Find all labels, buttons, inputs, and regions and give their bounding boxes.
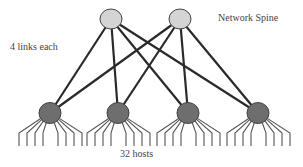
spine-switch-node xyxy=(100,9,122,29)
leaf-switch-node xyxy=(177,103,199,124)
spine-leaf-link xyxy=(180,19,188,113)
leaf-switch-node xyxy=(247,103,269,124)
host-link-line xyxy=(111,122,114,146)
host-link-line xyxy=(122,122,126,146)
spine-switch-node xyxy=(169,9,191,29)
hosts-count-label: 32 hosts xyxy=(120,148,153,159)
host-link-line xyxy=(54,122,58,146)
spine-leaf-link xyxy=(50,19,111,113)
network-diagram xyxy=(0,0,303,167)
links-each-label: 4 links each xyxy=(10,41,58,52)
host-link-line xyxy=(192,122,196,146)
spine-leaf-link xyxy=(50,19,180,113)
host-link-line xyxy=(262,122,266,146)
spine-leaf-link xyxy=(180,19,258,113)
network-spine-label: Network Spine xyxy=(218,12,278,23)
host-link-line xyxy=(43,122,46,146)
host-link-line xyxy=(181,122,184,146)
host-link-line xyxy=(251,122,254,146)
leaf-switch-node xyxy=(107,103,129,124)
spine-leaf-link xyxy=(118,19,180,113)
leaf-switch-node xyxy=(39,103,61,124)
